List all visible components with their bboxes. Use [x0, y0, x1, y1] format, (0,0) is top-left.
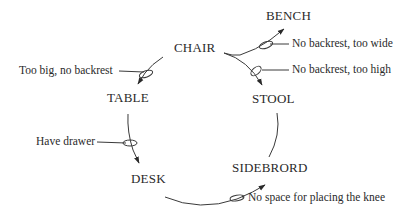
node-bench: BENCH	[266, 8, 311, 24]
edge-table-desk	[128, 114, 139, 163]
node-table: TABLE	[107, 90, 149, 106]
condition-marker-too-high	[249, 65, 263, 78]
condition-label-too-big: Too big, no backrest	[19, 64, 113, 76]
node-sidebrord: SIDEBRORD	[232, 160, 307, 176]
edge-chair-stool	[224, 53, 262, 85]
leader-too-big	[119, 71, 144, 72]
condition-label-no-space: No space for placing the knee	[248, 191, 385, 203]
condition-label-too-high: No backrest, too high	[292, 63, 391, 75]
condition-label-too-wide: No backrest, too wide	[292, 37, 393, 49]
node-stool: STOOL	[252, 91, 295, 107]
condition-marker-no-space	[230, 194, 245, 202]
condition-marker-too-big	[138, 69, 153, 80]
leader-have-drawer	[97, 142, 126, 143]
condition-label-have-drawer: Have drawer	[36, 135, 95, 147]
condition-marker-too-wide	[258, 40, 273, 51]
edge-stool-sidebrord	[269, 113, 278, 157]
node-chair: CHAIR	[174, 40, 215, 56]
node-desk: DESK	[131, 171, 166, 187]
edge-chair-bench	[224, 29, 284, 55]
diagram-connectors	[0, 0, 412, 218]
